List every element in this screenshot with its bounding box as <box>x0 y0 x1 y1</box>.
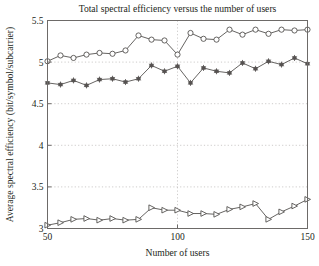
x-tick-label: 150 <box>300 232 315 242</box>
data-point-circle <box>201 36 206 41</box>
data-point-circle <box>58 53 63 58</box>
data-point-circle <box>292 28 297 33</box>
y-tick-label: 5 <box>39 58 44 68</box>
data-point-triangle <box>266 217 272 223</box>
data-point-circle <box>214 37 219 42</box>
chart-container: 33.544.555.550100150Total spectral effic… <box>0 0 319 266</box>
data-point-circle <box>149 37 154 42</box>
y-tick-label: 3.5 <box>32 182 44 192</box>
x-axis-label: Number of users <box>146 247 210 258</box>
y-tick-label: 4 <box>39 141 44 151</box>
x-tick-label: 50 <box>43 232 53 242</box>
data-point-circle <box>71 55 76 60</box>
data-point-triangle <box>110 216 116 222</box>
data-point-triangle <box>162 207 168 213</box>
data-point-circle <box>84 52 89 57</box>
chart-title: Total spectral efficiency versus the num… <box>79 3 277 14</box>
data-point-triangle <box>97 217 103 223</box>
data-point-circle <box>240 32 245 37</box>
data-point-circle <box>253 27 258 32</box>
data-point-triangle <box>201 211 207 217</box>
data-point-circle <box>175 52 180 57</box>
spectral-efficiency-chart: 33.544.555.550100150Total spectral effic… <box>0 0 319 266</box>
data-point-circle <box>227 27 232 32</box>
data-point-circle <box>123 48 128 53</box>
y-axis-label: Average spectral efficiency (bit/symbol/… <box>4 27 16 222</box>
x-tick-label: 100 <box>170 232 185 242</box>
data-point-circle <box>188 30 193 35</box>
data-point-circle <box>279 27 284 32</box>
data-point-triangle <box>58 220 64 226</box>
data-point-triangle <box>188 211 194 217</box>
data-point-triangle <box>240 204 246 210</box>
data-point-triangle <box>71 217 77 223</box>
data-point-circle <box>162 38 167 43</box>
data-point-circle <box>136 33 141 38</box>
data-point-triangle <box>214 212 220 218</box>
data-point-circle <box>97 50 102 55</box>
data-point-triangle <box>84 216 90 222</box>
data-point-triangle <box>292 203 298 209</box>
y-tick-label: 4.5 <box>32 99 44 109</box>
data-point-triangle <box>149 205 155 211</box>
data-point-triangle <box>227 207 233 213</box>
data-point-circle <box>110 51 115 56</box>
y-tick-label: 5.5 <box>32 16 44 26</box>
data-point-triangle <box>279 209 285 215</box>
data-point-triangle <box>123 217 129 223</box>
data-point-circle <box>266 31 271 36</box>
